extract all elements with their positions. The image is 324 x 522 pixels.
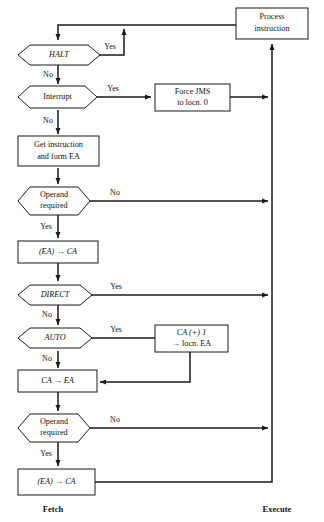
- edge-label-auto-no: No: [42, 354, 52, 363]
- node-force-jms-line-0: Force JMS: [175, 87, 211, 96]
- node-interrupt-label: Interrupt: [43, 92, 72, 101]
- edge-label-interrupt-yes: Yes: [107, 84, 119, 93]
- edge-label-direct-yes: Yes: [110, 282, 122, 291]
- node-force-jms-line-1: to locn. 0: [177, 98, 208, 107]
- node-auto-label: AUTO: [43, 333, 65, 342]
- edge-label-halt-yes: Yes: [104, 42, 116, 51]
- node-get-instruction-line-0: Get instruction: [34, 140, 83, 149]
- node-ca-plus-one[interactable]: CA (+) 1 → locn. EA: [155, 325, 228, 352]
- node-get-instruction[interactable]: Get instruction and form EA: [18, 136, 99, 166]
- node-ca-plus-one-line-0: CA (+) 1: [177, 328, 206, 337]
- flowchart-canvas: Process instruction HALT Interrupt Force…: [0, 0, 324, 522]
- phase-label-execute: Execute: [263, 504, 292, 514]
- edge-label-operand1-yes: Yes: [40, 222, 52, 231]
- edge-label-interrupt-no: No: [43, 116, 53, 125]
- edge-caplusone-to-caea: [100, 352, 190, 382]
- node-ea-to-ca-2-label: (EA) → CA: [37, 477, 76, 486]
- node-ea-to-ca-1-label: (EA) → CA: [39, 247, 78, 256]
- node-interrupt[interactable]: Interrupt: [18, 86, 97, 108]
- node-direct[interactable]: DIRECT: [18, 285, 92, 305]
- node-halt-label: HALT: [48, 50, 70, 59]
- node-halt[interactable]: HALT: [18, 45, 100, 65]
- edge-label-operand2-no: No: [110, 415, 120, 424]
- edge-label-auto-yes: Yes: [110, 325, 122, 334]
- node-process-instruction-line-0: Process: [259, 12, 284, 21]
- node-operand-required-1-line-1: required: [40, 201, 67, 210]
- edge-label-operand2-yes: Yes: [40, 449, 52, 458]
- flowchart-diagram: Process instruction HALT Interrupt Force…: [0, 0, 324, 522]
- edge-label-operand1-no: No: [110, 188, 120, 197]
- edge-process-to-halt: [58, 25, 236, 40]
- node-operand-required-2[interactable]: Operand required: [18, 414, 90, 442]
- node-direct-label: DIRECT: [40, 290, 71, 299]
- node-ea-to-ca-2[interactable]: (EA) → CA: [18, 469, 95, 495]
- node-force-jms[interactable]: Force JMS to locn. 0: [155, 84, 230, 111]
- phase-label-fetch: Fetch: [43, 504, 64, 514]
- node-operand-required-1-line-0: Operand: [40, 190, 68, 199]
- node-operand-required-1[interactable]: Operand required: [18, 187, 90, 215]
- node-get-instruction-line-1: and form EA: [37, 152, 80, 161]
- node-ca-to-ea-label: CA → EA: [41, 376, 75, 385]
- node-ea-to-ca-1[interactable]: (EA) → CA: [18, 241, 98, 263]
- node-process-instruction-line-1: instruction: [254, 24, 289, 33]
- edge-label-direct-no: No: [42, 310, 52, 319]
- node-auto[interactable]: AUTO: [18, 328, 92, 348]
- edge-label-halt-no: No: [43, 70, 53, 79]
- node-process-instruction[interactable]: Process instruction: [236, 8, 308, 39]
- node-operand-required-2-line-1: required: [40, 428, 67, 437]
- node-ca-plus-one-line-1: → locn. EA: [172, 339, 211, 348]
- node-ca-to-ea[interactable]: CA → EA: [18, 370, 97, 392]
- node-operand-required-2-line-0: Operand: [40, 417, 68, 426]
